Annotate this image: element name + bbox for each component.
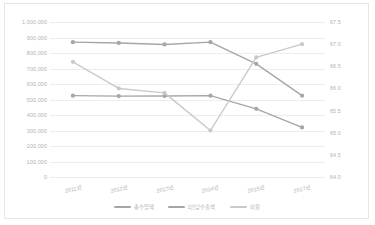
y-axis-left-tick: 300,000 [7, 128, 47, 134]
plot-area [50, 22, 325, 177]
data-point [300, 94, 304, 98]
y-axis-right-tick: 67.0 [330, 41, 364, 47]
data-point [71, 60, 75, 64]
data-point [300, 125, 304, 129]
data-point [300, 42, 304, 46]
y-axis-left-tick: 900,000 [7, 35, 47, 41]
data-point [162, 91, 166, 95]
data-point [71, 94, 75, 98]
data-point [117, 94, 121, 98]
legend-item-0[interactable]: 총수입액 [114, 203, 154, 211]
x-axis-tick-2: 2013년 [141, 180, 188, 197]
data-point [254, 107, 258, 111]
legend-label: 비율 [250, 203, 260, 211]
legend-label: 1인당수출액 [188, 203, 216, 211]
series-line-2 [73, 44, 302, 130]
gridline [50, 177, 325, 178]
y-axis-left-tick: 1,000,000 [7, 19, 47, 25]
legend-item-1[interactable]: 1인당수출액 [168, 203, 216, 211]
y-axis-right-tick: 67.5 [330, 19, 364, 25]
data-point [117, 41, 121, 45]
y-axis-right-tick: 64.5 [330, 152, 364, 158]
y-axis-left-tick: 500,000 [7, 97, 47, 103]
y-axis-left-tick: 400,000 [7, 112, 47, 118]
data-point [208, 40, 212, 44]
data-point [254, 62, 258, 66]
y-axis-left-tick: 0 [7, 174, 47, 180]
legend-item-2[interactable]: 비율 [230, 203, 260, 211]
legend-swatch-icon [230, 206, 247, 208]
data-point [162, 42, 166, 46]
y-axis-right-tick: 66.5 [330, 63, 364, 69]
data-point [208, 128, 212, 132]
data-point [71, 40, 75, 44]
x-axis-tick-5: 2017년 [279, 180, 326, 197]
series-layer [50, 22, 325, 177]
y-axis-right-tick: 66.0 [330, 85, 364, 91]
x-axis-tick-3: 2014년 [187, 180, 234, 197]
x-axis-tick-1: 2012년 [95, 180, 142, 197]
y-axis-left-tick: 200,000 [7, 143, 47, 149]
y-axis-left-tick: 800,000 [7, 50, 47, 56]
legend-swatch-icon [168, 206, 185, 208]
chart-legend: 총수입액1인당수출액비율 [5, 203, 368, 211]
data-point [117, 86, 121, 90]
y-axis-left-tick: 600,000 [7, 81, 47, 87]
x-axis-tick-4: 2015년 [233, 180, 280, 197]
series-line-0 [73, 42, 302, 95]
data-point [208, 94, 212, 98]
y-axis-right-tick: 65.5 [330, 108, 364, 114]
chart-container: 1,000,000900,000800,000700,000600,000500… [4, 3, 369, 219]
y-axis-left-tick: 700,000 [7, 66, 47, 72]
legend-label: 총수입액 [134, 203, 154, 211]
y-axis-left-tick: 100,000 [7, 159, 47, 165]
y-axis-right-tick: 65.0 [330, 130, 364, 136]
y-axis-right-tick: 64.0 [330, 174, 364, 180]
x-axis-tick-0: 2011년 [50, 180, 97, 197]
legend-swatch-icon [114, 206, 131, 208]
data-point [254, 55, 258, 59]
